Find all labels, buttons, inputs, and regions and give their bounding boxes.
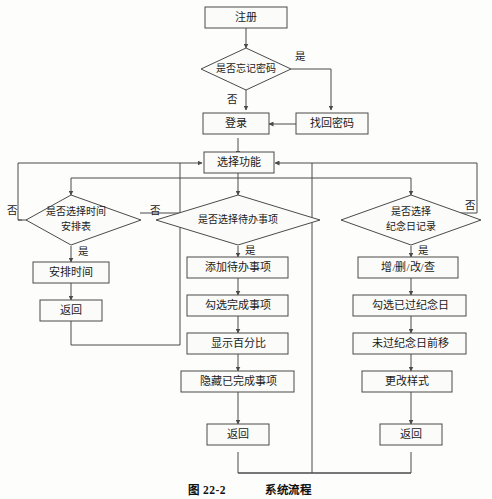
node-add-todo: 添加待办事项: [187, 257, 288, 278]
edge-return-left-join: [71, 320, 180, 345]
label-forgot-no: 否: [227, 94, 238, 105]
check-passed-label: 勾选已过纪念日: [372, 298, 449, 311]
label-todo-no: 否: [150, 205, 161, 216]
choose-anniversary-diamond: [341, 195, 481, 245]
arrange-time-label: 安排时间: [49, 265, 93, 278]
choose-schedule-label-line1: 是否选择时间: [46, 205, 106, 217]
node-choose-schedule: 是否选择时间 安排表: [26, 195, 141, 245]
caption-title: 系统流程: [265, 483, 312, 496]
node-choose-todo: 是否选择待办事项: [156, 195, 320, 245]
show-percent-label: 显示百分比: [211, 337, 266, 349]
move-upcoming-label: 未过纪念日前移: [372, 336, 449, 349]
node-check-passed: 勾选已过纪念日: [353, 295, 466, 316]
return-left-label: 返回: [60, 304, 82, 316]
node-return-mid: 返回: [207, 424, 269, 445]
label-todo-yes: 是: [245, 245, 256, 256]
node-show-percent: 显示百分比: [187, 333, 288, 354]
label-schedule-yes: 是: [78, 246, 89, 257]
login-label: 登录: [225, 116, 247, 129]
node-arrange-time: 安排时间: [33, 262, 109, 283]
crud-label: 增/删/改/查: [381, 260, 434, 273]
caption-number: 图 22-2: [188, 483, 226, 496]
node-change-style: 更改样式: [362, 371, 452, 392]
check-done-label: 勾选完成事项: [205, 298, 271, 311]
node-check-done: 勾选完成事项: [187, 295, 288, 316]
node-retrieve-password: 找回密码: [296, 113, 368, 134]
edge-forgot-yes-to-retrieve: [291, 69, 331, 110]
edge-return-mid-join: [238, 452, 411, 473]
choose-schedule-diamond: [26, 195, 141, 245]
choose-schedule-label-line2: 安排表: [61, 220, 91, 232]
node-forgot-password: 是否忘记密码: [201, 48, 291, 90]
return-right-label: 返回: [400, 428, 422, 440]
change-style-label: 更改样式: [385, 374, 429, 387]
retrieve-password-label: 找回密码: [310, 116, 354, 129]
forgot-password-label: 是否忘记密码: [216, 62, 276, 74]
add-todo-label: 添加待办事项: [205, 260, 271, 273]
flowchart-canvas: 注册 是否忘记密码 找回密码 登录 选择功能 是否选择时间 安排表: [0, 0, 492, 499]
node-hide-done: 隐藏已完成事项: [181, 371, 294, 392]
choose-anniversary-label-line1: 是否选择: [391, 205, 431, 217]
flowchart-figure: 注册 是否忘记密码 找回密码 登录 选择功能 是否选择时间 安排表: [0, 0, 492, 499]
edge-anniversary-no-return: [275, 163, 477, 213]
choose-anniversary-label-line2: 纪念日记录: [386, 220, 436, 232]
register-label: 注册: [235, 10, 257, 23]
node-register: 注册: [205, 7, 287, 28]
node-return-right: 返回: [380, 424, 442, 445]
node-login: 登录: [203, 113, 269, 134]
label-schedule-no: 否: [7, 205, 18, 216]
label-anniversary-no: 否: [465, 200, 476, 211]
label-anniversary-yes: 是: [418, 245, 429, 256]
choose-todo-label: 是否选择待办事项: [198, 213, 278, 225]
hide-done-label: 隐藏已完成事项: [200, 374, 277, 387]
figure-caption: 图 22-2 系统流程: [188, 483, 311, 496]
node-select-function: 选择功能: [204, 152, 274, 173]
node-choose-anniversary: 是否选择 纪念日记录: [341, 195, 481, 245]
node-return-left: 返回: [40, 300, 102, 321]
select-function-label: 选择功能: [217, 155, 261, 168]
return-mid-label: 返回: [227, 428, 249, 440]
label-forgot-yes: 是: [295, 51, 306, 62]
node-crud: 增/删/改/查: [358, 257, 458, 278]
node-move-upcoming: 未过纪念日前移: [353, 333, 466, 354]
